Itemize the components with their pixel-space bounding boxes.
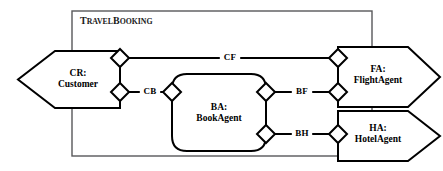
connector-bh-label: BH [295, 128, 309, 138]
connector-cb-label: CB [143, 86, 156, 96]
uml-canvas: TRAVELBOOKING CFCBBFBH CR:CustomerBA:Boo… [0, 0, 443, 171]
connector-bf-label: BF [296, 86, 308, 96]
component-diagram-root: TRAVELBOOKING CFCBBFBH CR:CustomerBA:Boo… [0, 0, 443, 171]
connector-cf-label: CF [224, 52, 237, 62]
frame-title-label: TRAVELBOOKING [80, 15, 153, 26]
